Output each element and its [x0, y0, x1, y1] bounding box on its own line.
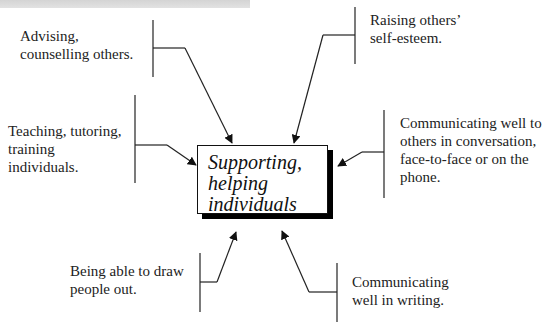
node-draw-out: Being able to draw people out.	[70, 262, 184, 298]
raising-connector	[294, 7, 355, 143]
node-teaching: Teaching, tutoring, training individuals…	[8, 122, 122, 176]
node-raising: Raising others’ self-esteem.	[370, 11, 461, 47]
advising-connector	[153, 20, 232, 143]
node-communicating-conversation: Communicating well to others in conversa…	[400, 114, 542, 186]
node-advising: Advising, counselling others.	[20, 27, 133, 63]
central-node-box: Supporting, helping individuals	[197, 145, 328, 214]
communicating-conversation-connector	[338, 110, 384, 198]
writing-connector	[282, 231, 337, 322]
central-node-label: Supporting, helping individuals	[208, 152, 327, 215]
draw-out-connector	[200, 232, 236, 312]
node-writing: Communicating well in writing.	[352, 273, 449, 309]
teaching-connector	[135, 95, 196, 183]
